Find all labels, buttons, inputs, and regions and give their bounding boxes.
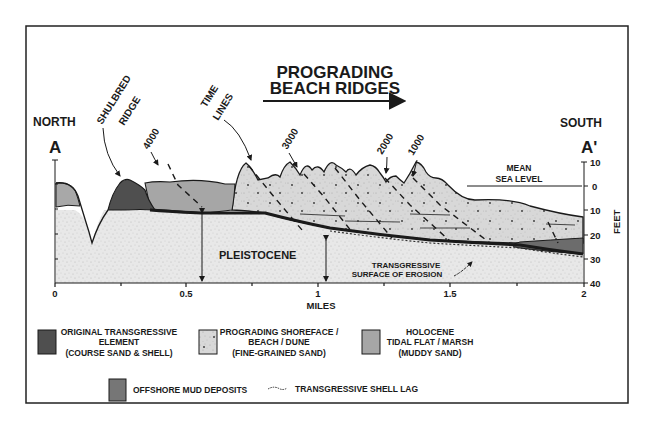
svg-text:ELEMENT: ELEMENT [99, 337, 140, 347]
svg-text:ORIGINAL TRANSGRESSIVE: ORIGINAL TRANSGRESSIVE [61, 327, 178, 337]
svg-text:(FINE-GRAINED SAND): (FINE-GRAINED SAND) [232, 348, 326, 358]
y-tick-0: 10 [590, 157, 601, 168]
x-tick-0: 0 [52, 288, 57, 299]
y-tick-1: 0 [592, 181, 597, 192]
section-a-prime-label: A' [581, 138, 597, 157]
section-a-label: A [49, 138, 61, 157]
svg-text:PROGRADING SHOREFACE /: PROGRADING SHOREFACE / [220, 327, 339, 337]
x-tick-2: 1 [315, 288, 321, 299]
y-tick-3: 20 [590, 230, 601, 241]
y-axis-label: FEET [611, 210, 622, 234]
svg-text:(COURSE SAND & SHELL): (COURSE SAND & SHELL) [65, 348, 172, 358]
title: PROGRADING BEACH RIDGES [263, 63, 402, 101]
legend-swatch-holocene [362, 330, 380, 354]
msl-label-2: SEA LEVEL [496, 174, 543, 184]
svg-text:OFFSHORE MUD DEPOSITS: OFFSHORE MUD DEPOSITS [133, 385, 248, 395]
legend-swatch-offshore-mud [109, 379, 126, 401]
tse-label-1: TRANSGRESSIVE [372, 261, 441, 270]
legend-swatch-prograding [199, 330, 217, 354]
svg-text:BEACH / DUNE: BEACH / DUNE [248, 337, 310, 347]
y-tick-5: 40 [590, 278, 601, 289]
south-label: SOUTH [560, 116, 602, 130]
svg-text:TIDAL FLAT / MARSH: TIDAL FLAT / MARSH [387, 337, 474, 347]
svg-text:HOLOCENE: HOLOCENE [406, 327, 455, 337]
msl-label-1: MEAN [506, 163, 531, 173]
legend-swatch-original [38, 330, 56, 354]
x-tick-4: 2 [581, 288, 586, 299]
x-axis-label: MILES [306, 300, 335, 311]
north-label: NORTH [33, 115, 76, 129]
cross-section-diagram: PROGRADING BEACH RIDGES NORTH A SOUTH A' [0, 0, 653, 439]
x-tick-3: 1.5 [443, 288, 457, 299]
svg-text:TRANSGRESSIVE SHELL LAG: TRANSGRESSIVE SHELL LAG [295, 384, 418, 394]
holocene-middle-unit [145, 180, 235, 213]
pleistocene-label: PLEISTOCENE [219, 249, 296, 261]
tse-label-2: SURFACE OF EROSION [352, 270, 443, 279]
y-tick-2: 10 [590, 205, 601, 216]
y-tick-4: 30 [590, 254, 601, 265]
x-tick-1: 0.5 [179, 288, 193, 299]
title-line2: BEACH RIDGES [270, 79, 400, 98]
svg-text:(MUDDY SAND): (MUDDY SAND) [398, 348, 461, 358]
